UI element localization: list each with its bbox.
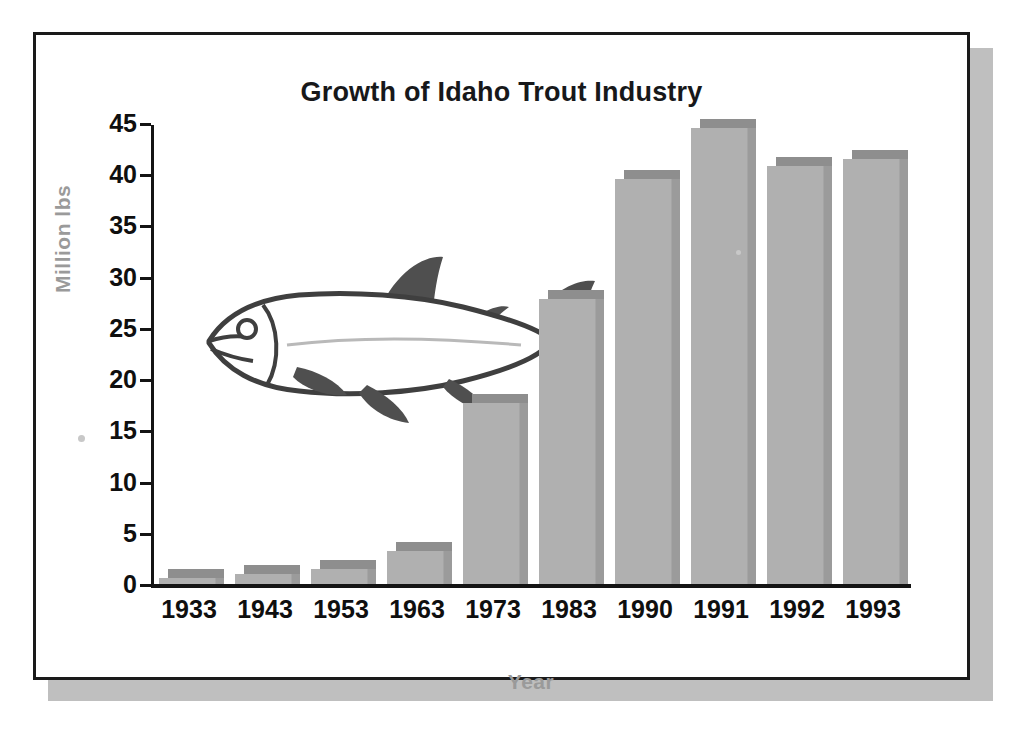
bar-side-face: [823, 166, 832, 584]
bar-front-face: [235, 574, 292, 584]
y-tick-mark: [140, 328, 151, 331]
chart-frame: Growth of Idaho Trout Industry 051015202…: [33, 32, 970, 680]
chart-title: Growth of Idaho Trout Industry: [36, 77, 967, 108]
bar-1943: [235, 125, 291, 584]
bar-side-face: [367, 569, 376, 584]
x-tick-label-1953: 1953: [303, 595, 379, 624]
bar-1990: [615, 125, 671, 584]
bar-top-face: [548, 290, 604, 299]
bar-1993: [843, 125, 899, 584]
y-tick-mark: [140, 174, 151, 177]
bar-front-face: [539, 299, 596, 584]
y-tick-label: 45: [109, 109, 137, 138]
x-tick-label-1992: 1992: [759, 595, 835, 624]
bar-top-face: [700, 119, 756, 128]
bar-front-face: [463, 403, 520, 584]
bar-top-face: [320, 560, 376, 569]
bar-side-face: [671, 179, 680, 584]
y-tick-mark: [140, 584, 151, 587]
y-tick-label: 0: [123, 570, 137, 599]
x-tick-label-1993: 1993: [835, 595, 911, 624]
bar-front-face: [691, 128, 748, 584]
bar-front-face: [767, 166, 824, 584]
bar-1973: [463, 125, 519, 584]
bar-1953: [311, 125, 367, 584]
y-tick-label: 15: [109, 416, 137, 445]
bar-top-face: [624, 170, 680, 179]
bar-front-face: [159, 578, 216, 584]
y-tick-mark: [140, 123, 151, 126]
y-tick-label: 30: [109, 262, 137, 291]
scan-speck: [736, 250, 741, 255]
x-tick-label-1983: 1983: [531, 595, 607, 624]
y-tick-label: 20: [109, 365, 137, 394]
y-tick-label: 25: [109, 313, 137, 342]
bar-series: [151, 125, 911, 586]
bar-side-face: [443, 551, 452, 584]
y-tick-mark: [140, 533, 151, 536]
x-tick-label-1990: 1990: [607, 595, 683, 624]
bar-1963: [387, 125, 443, 584]
y-tick-label: 10: [109, 467, 137, 496]
plot-area: 051015202530354045 Million lbs: [151, 125, 911, 595]
y-tick-mark: [140, 277, 151, 280]
bar-1991: [691, 125, 747, 584]
y-axis-title: Million lbs: [51, 185, 75, 293]
y-tick-label: 40: [109, 160, 137, 189]
bar-side-face: [595, 299, 604, 584]
x-tick-label-1991: 1991: [683, 595, 759, 624]
bar-top-face: [168, 569, 224, 578]
x-tick-label-1973: 1973: [455, 595, 531, 624]
bar-front-face: [387, 551, 444, 584]
bar-side-face: [899, 159, 908, 584]
bar-side-face: [215, 578, 224, 584]
y-tick-label: 35: [109, 211, 137, 240]
x-tick-label-1943: 1943: [227, 595, 303, 624]
y-tick-mark: [140, 379, 151, 382]
y-tick-mark: [140, 482, 151, 485]
bar-1992: [767, 125, 823, 584]
bar-1933: [159, 125, 215, 584]
bar-front-face: [311, 569, 368, 584]
scan-speck: [78, 435, 85, 442]
bar-top-face: [776, 157, 832, 166]
bar-side-face: [747, 128, 756, 584]
x-tick-label-1933: 1933: [151, 595, 227, 624]
y-tick-mark: [140, 225, 151, 228]
bar-front-face: [843, 159, 900, 584]
bar-side-face: [519, 403, 528, 584]
bar-1983: [539, 125, 595, 584]
chart-page: Growth of Idaho Trout Industry 051015202…: [0, 0, 1011, 740]
x-axis-title: Year: [151, 670, 911, 694]
bar-top-face: [244, 565, 300, 574]
bar-side-face: [291, 574, 300, 584]
bar-top-face: [852, 150, 908, 159]
y-tick-label: 5: [123, 518, 137, 547]
x-tick-label-1963: 1963: [379, 595, 455, 624]
bar-top-face: [396, 542, 452, 551]
bar-front-face: [615, 179, 672, 584]
bar-top-face: [472, 394, 528, 403]
y-tick-mark: [140, 430, 151, 433]
